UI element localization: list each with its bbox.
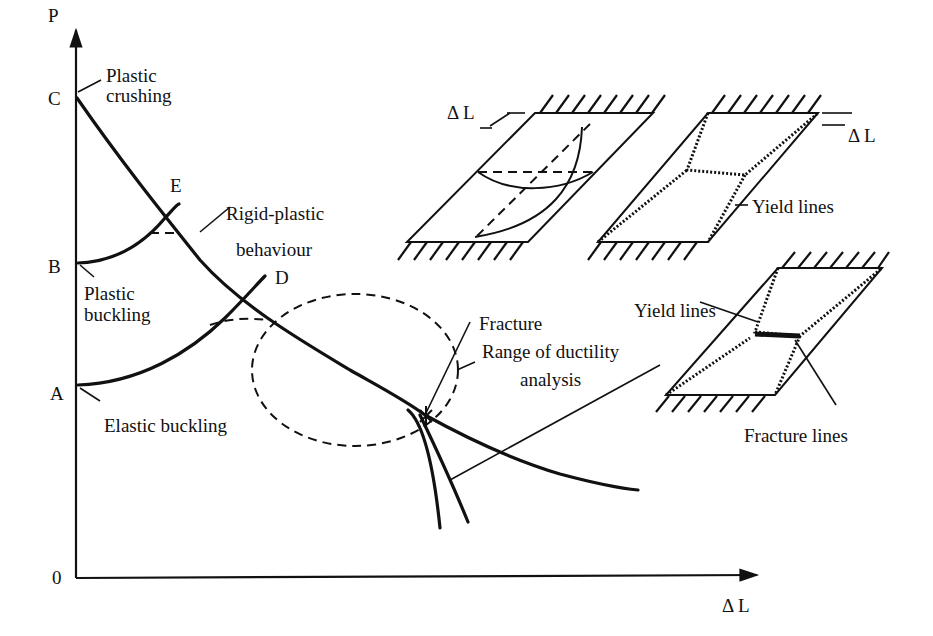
fracture-drop-curve-2 <box>420 415 468 522</box>
plastic-crushing-label-1: Plastic <box>106 65 157 86</box>
rigid-plastic-label-1: Rigid-plastic <box>226 203 324 224</box>
point-e-label: E <box>170 175 182 196</box>
leader-elastic-buckling <box>80 388 100 401</box>
origin-label: 0 <box>52 567 62 588</box>
elastic-buckling-label: Elastic buckling <box>104 415 227 436</box>
fracture-drop-curve-1 <box>408 410 440 528</box>
inset-plate-elastic-buckling: Δ L <box>398 95 665 260</box>
plastic-buckling-label-2: buckling <box>84 304 151 325</box>
point-c-label: C <box>48 88 61 109</box>
inset-plate-fracture-lines: Yield lines Fracture lines <box>634 252 889 446</box>
bottom-hatch-1 <box>398 242 523 260</box>
p-axis-label: P <box>48 5 59 26</box>
point-b-label: B <box>48 256 61 277</box>
plastic-crushing-label-2: crushing <box>106 85 172 106</box>
fracture-label: Fracture <box>479 313 542 334</box>
top-hatch-3 <box>782 252 889 268</box>
range-label-1: Range of ductility <box>482 341 620 362</box>
range-label-2: analysis <box>520 369 581 390</box>
delta-l-axis-label: Δ L <box>722 595 750 616</box>
plate3-yield-lines-label: Yield lines <box>634 300 716 321</box>
leader-plastic-crushing <box>78 80 101 92</box>
plate2-yield-lines-label: Yield lines <box>752 196 834 217</box>
top-hatch-1 <box>540 95 665 113</box>
ductility-range-ellipse <box>252 294 458 446</box>
load-displacement-diagram: P Δ L 0 C B A E D Plastic crushing Plast… <box>0 0 933 636</box>
point-a-label: A <box>50 383 64 404</box>
bottom-hatch-2 <box>588 242 697 260</box>
leader-plastic-buckling <box>80 265 94 277</box>
plastic-buckling-label-1: Plastic <box>84 283 135 304</box>
rigid-plastic-label-2: behaviour <box>236 239 313 260</box>
plate1-delta-l-label: Δ L <box>447 102 475 123</box>
plate2-delta-l-label: Δ L <box>848 125 876 146</box>
inset-plate-yield-lines: Δ L Yield lines <box>588 95 876 260</box>
leader-range <box>457 362 475 370</box>
bottom-hatch-3 <box>656 396 765 412</box>
plate3-fracture-lines-label: Fracture lines <box>744 425 848 446</box>
point-d-label: D <box>275 267 289 288</box>
top-hatch-2 <box>712 95 821 113</box>
delta-l-axis <box>76 575 757 578</box>
